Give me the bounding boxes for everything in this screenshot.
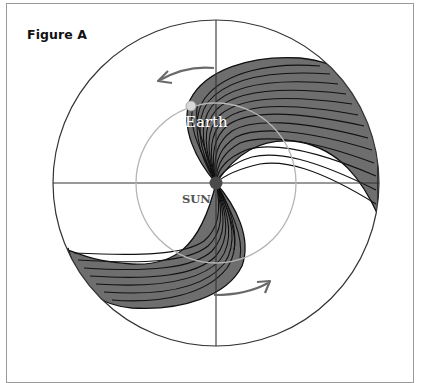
sun-label: SUN xyxy=(182,192,211,206)
earth-label: Earth xyxy=(185,113,228,131)
earth xyxy=(186,101,196,111)
spiral-arm-lower xyxy=(68,183,245,308)
sun xyxy=(210,177,223,190)
